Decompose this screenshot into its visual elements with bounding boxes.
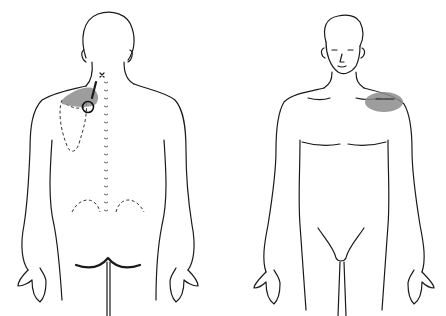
head-back — [83, 12, 134, 60]
head-front — [325, 15, 364, 46]
left-hand-front — [254, 270, 280, 304]
referral-zone-anterior — [365, 92, 403, 112]
posterior-figure — [18, 12, 198, 316]
figure-canvas — [0, 0, 446, 316]
anatomy-illustration — [0, 0, 446, 316]
anterior-figure — [254, 15, 434, 316]
left-hand — [18, 268, 46, 302]
right-hand-front — [408, 270, 434, 304]
right-hand — [170, 268, 198, 302]
gluteal-fold — [76, 258, 140, 268]
torso-outline-right — [134, 84, 194, 270]
torso-outline-left — [22, 86, 86, 270]
spine-vertebrae — [104, 82, 108, 211]
x-marker — [100, 73, 104, 77]
